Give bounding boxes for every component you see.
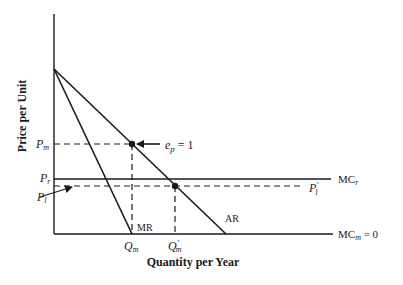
- monopoly-pricing-diagram: ep = 1 Pm Pr Pl MR AR MCr P′l MCm = 0 Qm…: [0, 0, 403, 285]
- y-axis-title: Price per Unit: [15, 80, 29, 152]
- ar-label: AR: [225, 213, 239, 224]
- qm-prime-label: Q′m: [168, 238, 182, 254]
- qm-label: Qm: [124, 239, 139, 254]
- regulated-point: [172, 183, 178, 189]
- mc-m-label: MCm = 0: [338, 228, 379, 242]
- pm-label: Pm: [35, 137, 49, 152]
- mr-curve: [54, 69, 132, 234]
- pr-label: Pr: [39, 171, 51, 186]
- mr-label: MR: [137, 222, 153, 233]
- mc-r-label: MCr: [338, 173, 359, 187]
- unit-elastic-point: [129, 141, 135, 147]
- x-axis-title: Quantity per Year: [147, 255, 240, 269]
- p-l-prime-label: P′l: [308, 180, 319, 197]
- ar-curve: [54, 69, 226, 234]
- pl-label: Pl: [36, 190, 47, 205]
- elasticity-label: ep = 1: [165, 138, 194, 154]
